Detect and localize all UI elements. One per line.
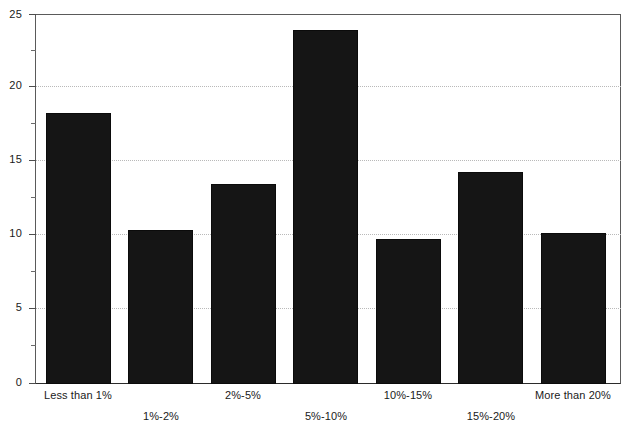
bar-1-2[interactable] — [128, 230, 193, 384]
ytick-label-10: 10 — [0, 228, 22, 239]
bar-2-5[interactable] — [211, 184, 276, 384]
bar-more-than-20[interactable] — [541, 233, 606, 384]
xtick-label-10-15: 10%-15% — [384, 389, 432, 401]
xtick-label-less-than-1: Less than 1% — [44, 389, 112, 401]
ytick-minor-7-5 — [31, 271, 36, 272]
ytick-label-0: 0 — [0, 377, 22, 388]
bar-chart: 25 20 15 10 5 0 Less than 1% 1%-2% 2%-5%… — [0, 0, 626, 428]
ytick-label-5: 5 — [0, 302, 22, 313]
ytick-minor-2-5 — [31, 345, 36, 346]
xtick-label-2-5: 2%-5% — [225, 389, 261, 401]
ytick-major-20 — [29, 86, 36, 87]
ytick-major-25 — [29, 14, 36, 15]
ytick-label-15: 15 — [0, 154, 22, 165]
ytick-major-15 — [29, 160, 36, 161]
ytick-minor-17-5 — [31, 123, 36, 124]
ytick-major-0 — [29, 383, 36, 384]
xtick-label-1-2: 1%-2% — [143, 410, 179, 422]
ytick-major-5 — [29, 308, 36, 309]
ytick-label-25: 25 — [0, 9, 22, 20]
bar-less-than-1[interactable] — [46, 113, 111, 384]
ytick-major-10 — [29, 234, 36, 235]
bar-5-10[interactable] — [293, 30, 358, 384]
bar-15-20[interactable] — [458, 172, 523, 384]
ytick-label-20: 20 — [0, 80, 22, 91]
xtick-label-more-than-20: More than 20% — [535, 389, 611, 401]
ytick-minor-22-5 — [31, 50, 36, 51]
ytick-minor-12-5 — [31, 197, 36, 198]
bar-10-15[interactable] — [376, 239, 441, 384]
xtick-label-5-10: 5%-10% — [305, 410, 347, 422]
xtick-label-15-20: 15%-20% — [467, 410, 515, 422]
